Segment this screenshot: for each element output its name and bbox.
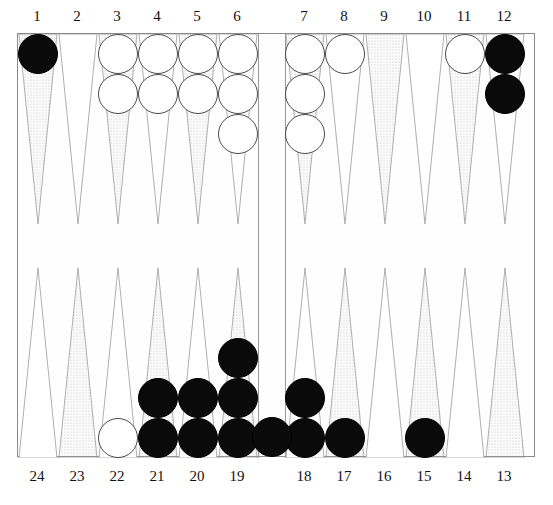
checker-black-point-18[interactable] (285, 378, 325, 418)
checker-white-point-5[interactable] (178, 74, 218, 114)
point-2[interactable] (58, 34, 98, 226)
backgammon-board: 123456789101112 242322212019181716151413 (0, 0, 553, 505)
point-label-9: 9 (364, 8, 404, 25)
checker-white-point-6[interactable] (218, 114, 258, 154)
point-label-15: 15 (404, 468, 444, 485)
checker-white-point-4[interactable] (138, 74, 178, 114)
checker-white-point-11[interactable] (445, 34, 485, 74)
point-label-10: 10 (404, 8, 444, 25)
point-16[interactable] (365, 266, 405, 458)
point-label-17: 17 (324, 468, 364, 485)
point-label-2: 2 (57, 8, 97, 25)
checker-black-point-12[interactable] (485, 74, 525, 114)
checker-black-point-1[interactable] (18, 34, 58, 74)
point-label-3: 3 (97, 8, 137, 25)
checker-white-point-8[interactable] (325, 34, 365, 74)
point-14[interactable] (445, 266, 485, 458)
point-label-18: 18 (284, 468, 324, 485)
point-label-5: 5 (177, 8, 217, 25)
checker-white-point-22[interactable] (98, 418, 138, 458)
point-label-12: 12 (484, 8, 524, 25)
point-9[interactable] (365, 34, 405, 226)
point-label-21: 21 (137, 468, 177, 485)
checker-white-point-7[interactable] (285, 34, 325, 74)
checker-white-point-7[interactable] (285, 74, 325, 114)
checker-white-point-6[interactable] (218, 74, 258, 114)
point-23[interactable] (58, 266, 98, 458)
checker-black-point-21[interactable] (138, 378, 178, 418)
point-label-22: 22 (97, 468, 137, 485)
bar-zone[interactable] (258, 33, 285, 457)
checker-white-point-3[interactable] (98, 34, 138, 74)
point-10[interactable] (405, 34, 445, 226)
point-label-14: 14 (444, 468, 484, 485)
checker-black-point-19[interactable] (218, 378, 258, 418)
checker-black-point-20[interactable] (178, 418, 218, 458)
checker-black-point-19[interactable] (218, 338, 258, 378)
checker-black-point-17[interactable] (325, 418, 365, 458)
point-label-11: 11 (444, 8, 484, 25)
checker-white-point-7[interactable] (285, 114, 325, 154)
point-label-19: 19 (217, 468, 257, 485)
checker-black-point-15[interactable] (405, 418, 445, 458)
checker-white-point-3[interactable] (98, 74, 138, 114)
point-label-20: 20 (177, 468, 217, 485)
checker-white-point-6[interactable] (218, 34, 258, 74)
checker-black-point-12[interactable] (485, 34, 525, 74)
point-label-16: 16 (364, 468, 404, 485)
checker-black-point-20[interactable] (178, 378, 218, 418)
checker-white-point-5[interactable] (178, 34, 218, 74)
point-label-8: 8 (324, 8, 364, 25)
point-label-1: 1 (17, 8, 57, 25)
checker-white-point-4[interactable] (138, 34, 178, 74)
point-label-24: 24 (17, 468, 57, 485)
point-label-23: 23 (57, 468, 97, 485)
point-24[interactable] (18, 266, 58, 458)
point-label-7: 7 (284, 8, 324, 25)
point-label-4: 4 (137, 8, 177, 25)
point-label-6: 6 (217, 8, 257, 25)
point-label-13: 13 (484, 468, 524, 485)
checker-black-point-21[interactable] (138, 418, 178, 458)
point-13[interactable] (485, 266, 525, 458)
bar-checker-black[interactable] (252, 417, 292, 457)
